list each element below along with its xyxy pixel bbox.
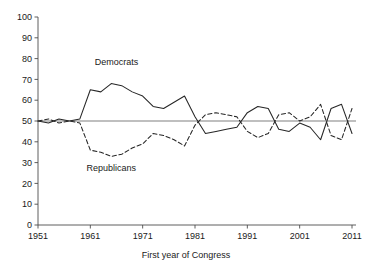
y-tick-label: 70 (22, 75, 32, 85)
y-tick-label: 20 (22, 179, 32, 189)
y-tick-label: 80 (22, 54, 32, 64)
chart-figure: 0102030405060708090100 19511961197119811… (0, 0, 368, 270)
annotation-republicans: Republicans (87, 163, 137, 173)
x-tick-label: 2001 (290, 231, 310, 241)
x-tick-label: 1991 (237, 231, 257, 241)
x-tick-label: 2011 (342, 231, 361, 241)
line-chart: 0102030405060708090100 19511961197119811… (0, 0, 368, 270)
x-tick-label: 1971 (133, 231, 153, 241)
y-tick-label: 40 (22, 137, 32, 147)
y-tick-label: 60 (22, 95, 32, 105)
x-tick-label: 1961 (80, 231, 100, 241)
x-tick-label: 1951 (28, 231, 48, 241)
series-line-democrats (38, 84, 352, 140)
y-axis: 0102030405060708090100 (17, 12, 38, 230)
y-tick-label: 50 (22, 116, 32, 126)
y-tick-label: 10 (22, 199, 32, 209)
x-tick-label: 1981 (185, 231, 205, 241)
y-tick-label: 100 (17, 12, 32, 22)
y-tick-label: 30 (22, 158, 32, 168)
annotation-democrats: Democrats (95, 57, 139, 67)
series-line-republicans (38, 104, 352, 156)
y-tick-label: 0 (27, 220, 32, 230)
series-lines (38, 84, 352, 157)
series-annotations: DemocratsRepublicans (87, 57, 139, 173)
x-axis-title: First year of Congress (142, 250, 231, 260)
x-axis: 1951196119711981199120012011 (28, 225, 362, 241)
y-tick-label: 90 (22, 33, 32, 43)
